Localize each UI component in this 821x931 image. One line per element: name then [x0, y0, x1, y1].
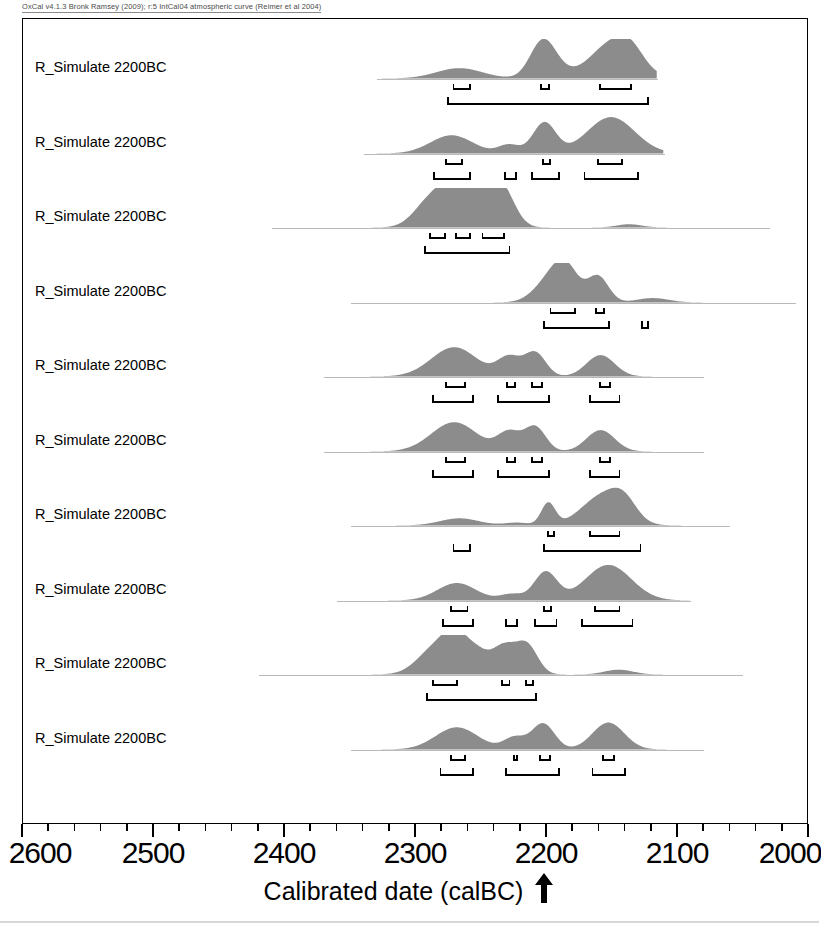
- sigma1-range-bracket: [595, 307, 604, 314]
- bracket-bar: [453, 88, 471, 90]
- sigma2-range-bracket: [641, 320, 649, 329]
- sigma1-range-bracket: [429, 232, 446, 239]
- bracket-bar: [589, 476, 620, 478]
- sigma2-range-bracket: [589, 469, 620, 478]
- axis-tick-minor: [126, 824, 128, 831]
- bracket-bar: [584, 178, 639, 180]
- axis-tick-minor: [467, 824, 469, 831]
- bracket-bar: [426, 699, 536, 701]
- bracket-bar: [589, 401, 620, 403]
- bracket-bar: [641, 327, 649, 329]
- sigma2-range-bracket: [581, 618, 633, 627]
- probability-distribution-area: [23, 482, 807, 556]
- sigma1-range-bracket: [445, 158, 463, 165]
- distribution-row: R_Simulate 2200BC: [23, 557, 807, 631]
- bracket-bar: [581, 625, 633, 627]
- bracket-bar: [592, 774, 626, 776]
- bracket-bar: [505, 625, 518, 627]
- bracket-bar: [450, 610, 468, 612]
- x-axis-title-label: Calibrated date (calBC): [264, 877, 524, 905]
- sigma2-range-bracket: [426, 692, 536, 701]
- sigma2-range-bracket: [543, 543, 641, 552]
- axis-tick-minor: [598, 824, 600, 831]
- sigma2-range-bracket: [505, 618, 518, 627]
- sigma1-range-bracket: [506, 381, 515, 388]
- bracket-bar: [531, 178, 560, 180]
- axis-tick-minor: [388, 824, 390, 831]
- axis-tick-minor: [781, 824, 783, 831]
- bracket-bar: [445, 386, 466, 388]
- probability-distribution-area: [23, 408, 807, 482]
- probability-distribution-area: [23, 259, 807, 333]
- axis-tick-minor: [336, 824, 338, 831]
- bracket-bar: [432, 476, 474, 478]
- axis-tick-minor: [440, 824, 442, 831]
- bracket-bar: [497, 401, 549, 403]
- oxcal-credit-line: OxCal v4.1.3 Bronk Ramsey (2009); r:5 In…: [22, 2, 321, 13]
- axis-tick-label: 2500: [122, 836, 185, 870]
- axis-tick-minor: [362, 824, 364, 831]
- sigma2-range-bracket: [589, 394, 620, 403]
- bracket-bar: [455, 237, 471, 239]
- bracket-bar: [432, 401, 474, 403]
- sigma2-range-bracket: [534, 618, 558, 627]
- axis-tick-minor: [729, 824, 731, 831]
- axis-tick-minor: [257, 824, 259, 831]
- distribution-row: R_Simulate 2200BC: [23, 184, 807, 258]
- sigma2-range-bracket: [531, 171, 560, 180]
- sigma1-range-bracket: [455, 232, 471, 239]
- bracket-bar: [539, 759, 551, 761]
- sigma1-range-bracket: [453, 83, 471, 90]
- bracket-bar: [506, 461, 515, 463]
- probability-distribution-area: [23, 557, 807, 631]
- distribution-row: R_Simulate 2200BC: [23, 408, 807, 482]
- sigma1-range-bracket: [550, 307, 576, 314]
- axis-tick-minor: [571, 824, 573, 831]
- bracket-bar: [542, 163, 551, 165]
- axis-tick-minor: [231, 824, 233, 831]
- bracket-bar: [594, 610, 620, 612]
- sigma2-range-bracket: [497, 394, 549, 403]
- sigma1-range-bracket: [539, 754, 551, 761]
- probability-distribution-area: [23, 35, 807, 109]
- bracket-bar: [599, 461, 611, 463]
- up-arrow-icon: [533, 873, 555, 909]
- sigma1-range-bracket: [540, 83, 549, 90]
- axis-tick-label: 2600: [9, 836, 72, 870]
- sigma1-range-bracket: [594, 605, 620, 612]
- sigma1-range-bracket: [597, 158, 623, 165]
- bracket-bar: [445, 461, 466, 463]
- axis-tick-minor: [74, 824, 76, 831]
- sigma1-range-bracket: [506, 456, 515, 463]
- bracket-bar: [513, 759, 518, 761]
- axis-tick-minor: [702, 824, 704, 831]
- distribution-row: R_Simulate 2200BC: [23, 333, 807, 407]
- probability-distribution-area: [23, 333, 807, 407]
- axis-tick-label: 2300: [384, 836, 447, 870]
- sigma1-range-bracket: [450, 754, 466, 761]
- bracket-bar: [506, 386, 515, 388]
- sigma2-range-bracket: [505, 767, 560, 776]
- bracket-bar: [505, 774, 560, 776]
- axis-tick-minor: [309, 824, 311, 831]
- sigma1-range-bracket: [599, 456, 611, 463]
- axis-tick-label: 2100: [646, 836, 709, 870]
- bracket-bar: [429, 237, 446, 239]
- sigma1-range-bracket: [445, 456, 466, 463]
- sigma1-range-bracket: [602, 754, 615, 761]
- sigma2-range-bracket: [442, 618, 473, 627]
- bracket-bar: [445, 163, 463, 165]
- bracket-bar: [504, 178, 517, 180]
- bracket-bar: [547, 535, 555, 537]
- sigma1-range-bracket: [450, 605, 468, 612]
- axis-tick-minor: [650, 824, 652, 831]
- sigma1-range-bracket: [542, 158, 551, 165]
- sigma1-range-bracket: [501, 679, 510, 686]
- sigma1-range-bracket: [525, 679, 534, 686]
- sigma2-range-bracket: [424, 245, 510, 254]
- distribution-row: R_Simulate 2200BC: [23, 259, 807, 333]
- axis-tick-minor: [493, 824, 495, 831]
- sigma2-range-bracket: [453, 543, 471, 552]
- bracket-bar: [534, 625, 558, 627]
- sigma1-range-bracket: [589, 530, 620, 537]
